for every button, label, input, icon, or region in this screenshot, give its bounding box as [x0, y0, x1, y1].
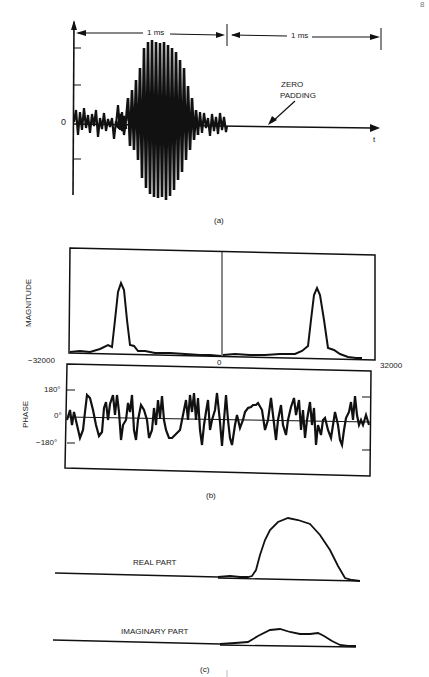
panel-a-interval-2-label: 1 ms: [291, 31, 308, 40]
panel-a-interval-1-label: 1 ms: [147, 28, 164, 37]
phase-tick-minus-180: −180°: [36, 438, 57, 447]
panel-b-phase-ylabel: PHASE: [21, 401, 30, 428]
panel-c-caption: (c): [200, 665, 209, 674]
panel-c-real-plot: [55, 518, 360, 581]
panel-c-imag-label: IMAGINARY PART: [121, 627, 188, 636]
panel-b-caption: (b): [206, 491, 216, 500]
panel-c-imag-plot: [53, 629, 356, 647]
panel-b-magnitude-plot: [69, 248, 375, 360]
panel-b-x-min-label: −32000: [28, 356, 55, 365]
panel-b-x-mid-label: 0: [217, 358, 221, 367]
page-number-fragment: 8: [420, 0, 424, 9]
panel-a-plot: [71, 20, 381, 200]
figure-canvas: [0, 0, 429, 677]
panel-b-phase-plot: [65, 364, 371, 476]
panel-a-zero-label: 0: [61, 117, 66, 127]
panel-a-annotation-zero: ZERO: [281, 80, 303, 89]
panel-a-annotation-padding: PADDING: [280, 91, 316, 100]
phase-tick-0: 0°: [54, 411, 62, 420]
panel-a-x-axis-label: t: [373, 135, 375, 144]
panel-a-caption: (a): [214, 216, 224, 225]
panel-b-magnitude-ylabel: MAGNITUDE: [24, 279, 33, 327]
panel-b-x-max-label: 32000: [380, 361, 402, 370]
phase-tick-180: 180°: [44, 385, 61, 394]
panel-c-real-label: REAL PART: [133, 558, 176, 567]
